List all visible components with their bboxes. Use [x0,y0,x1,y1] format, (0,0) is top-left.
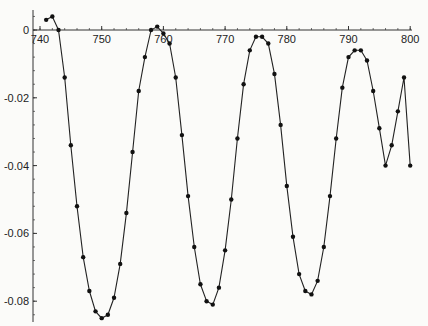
y-tick-label: -0.04 [4,160,29,172]
y-axis: 0-0.02-0.04-0.06-0.08 [4,10,37,322]
data-point [291,235,295,239]
data-point [186,194,190,198]
data-point [346,55,350,59]
data-point [167,41,171,45]
data-point [81,255,85,259]
data-line [46,16,410,318]
data-point [315,279,319,283]
data-point [278,123,282,127]
data-point [118,262,122,266]
x-tick-label: 740 [31,33,49,45]
y-tick-label: -0.02 [4,92,29,104]
data-point [383,163,387,167]
data-point [174,75,178,79]
data-point [235,136,239,140]
data-point [352,48,356,52]
x-tick-label: 790 [339,33,357,45]
plot-area [44,14,412,320]
data-point [266,41,270,45]
data-point [322,245,326,249]
data-point [93,309,97,313]
data-point [143,55,147,59]
data-point [198,282,202,286]
data-point [241,82,245,86]
data-point [204,299,208,303]
data-point [328,194,332,198]
data-point [69,143,73,147]
data-point [62,75,66,79]
data-point [396,109,400,113]
y-tick-label: 0 [23,24,29,36]
data-point [155,24,159,28]
data-point [365,58,369,62]
data-point [56,28,60,32]
x-tick-label: 800 [401,33,419,45]
data-point [124,211,128,215]
data-point [149,28,153,32]
y-tick-label: -0.06 [4,227,29,239]
data-point [285,184,289,188]
data-point [180,133,184,137]
data-point [359,48,363,52]
data-point [254,35,258,39]
data-point [272,72,276,76]
data-point [303,289,307,293]
x-tick-label: 770 [216,33,234,45]
data-point [377,126,381,130]
data-point [137,89,141,93]
data-point [217,285,221,289]
data-point [309,292,313,296]
data-point [248,48,252,52]
data-point [112,296,116,300]
data-point [161,31,165,35]
data-point [334,136,338,140]
y-tick-label: -0.08 [4,295,29,307]
x-tick-label: 780 [278,33,296,45]
data-point [130,150,134,154]
data-point [408,163,412,167]
data-point [192,245,196,249]
data-point [75,204,79,208]
line-chart: 0-0.02-0.04-0.06-0.08 740750760770780790… [0,0,428,326]
data-point [402,75,406,79]
data-point [223,248,227,252]
data-point [297,272,301,276]
data-point [100,316,104,320]
x-tick-label: 750 [93,33,111,45]
data-point [211,302,215,306]
data-point [106,313,110,317]
data-point [260,35,264,39]
data-point [371,89,375,93]
data-point [44,18,48,22]
data-point [87,289,91,293]
data-point [229,197,233,201]
data-point [340,85,344,89]
x-axis: 740750760770780790800 [31,26,420,45]
data-point [389,143,393,147]
data-point [50,14,54,18]
